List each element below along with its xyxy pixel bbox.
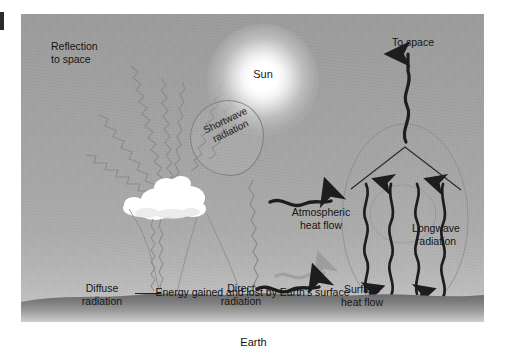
wavy-arrow-right-icon (276, 273, 324, 278)
radiation-ray-icon (129, 209, 159, 290)
longwave-radiation-label: Longwave radiation (397, 222, 475, 247)
radiation-ray-icon (159, 219, 163, 292)
radiation-ray-icon (177, 217, 197, 292)
incoming-beam-group (129, 209, 240, 292)
energy-balance-caption: Energy gained and lost by Earth's surfac… (21, 286, 484, 298)
reflection-to-space-label: Reflection to space (51, 40, 98, 65)
radiation-ray-icon (151, 219, 155, 291)
radiation-ray-icon (131, 66, 168, 192)
sun-label: Sun (207, 68, 319, 80)
radiation-ray-icon (249, 180, 258, 291)
reflection-rays-group (86, 66, 185, 198)
diagram-panel: Sun Shortwave radiation Reflection to sp… (21, 14, 484, 322)
figure-title-earth: Earth (0, 336, 507, 348)
radiation-ray-icon (99, 115, 164, 195)
radiation-ray-icon (207, 214, 240, 292)
wavy-arrow-right-icon (270, 200, 331, 205)
page-edge-tick (0, 12, 4, 30)
figure-canvas: Sun Shortwave radiation Reflection to sp… (0, 0, 507, 363)
direct-radiation-rays-group (249, 180, 258, 291)
atmospheric-heat-flow-label: Atmospheric heat flow (283, 206, 359, 231)
cloud-icon (123, 176, 206, 220)
to-space-label: To space (380, 36, 446, 49)
radiation-ray-icon (174, 82, 185, 186)
radiation-ray-icon (161, 78, 173, 188)
